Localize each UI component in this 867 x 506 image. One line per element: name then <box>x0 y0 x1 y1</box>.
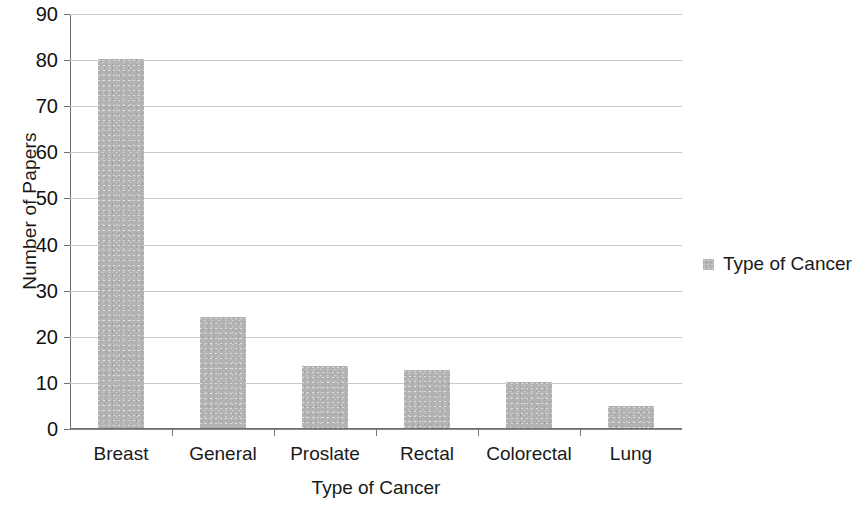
y-axis-tick-label: 80 <box>10 49 58 72</box>
x-axis-tick-label: Rectal <box>400 443 454 465</box>
x-axis-title: Type of Cancer <box>70 477 682 499</box>
gridline <box>70 106 682 107</box>
gridline <box>70 245 682 246</box>
gridline <box>70 14 682 15</box>
gridline <box>70 198 682 199</box>
y-axis-tickmark <box>64 429 70 430</box>
y-axis-tickmark <box>64 383 70 384</box>
y-axis-tickmark <box>64 337 70 338</box>
gridline <box>70 337 682 338</box>
category-separator <box>274 429 275 436</box>
y-axis-tick-label: 90 <box>10 3 58 26</box>
gridline <box>70 291 682 292</box>
x-axis-tick-label: Colorectal <box>486 443 572 465</box>
y-axis-tickmark <box>64 152 70 153</box>
legend: Type of Cancer <box>703 253 852 275</box>
y-axis-tick-label: 0 <box>10 418 58 441</box>
y-axis-tickmark <box>64 106 70 107</box>
bar <box>302 366 348 428</box>
bar <box>200 317 246 428</box>
y-axis-tickmark <box>64 14 70 15</box>
category-separator <box>478 429 479 436</box>
x-axis-tick-label: Proslate <box>290 443 360 465</box>
y-axis-tick-label: 50 <box>10 187 58 210</box>
gridline <box>70 383 682 384</box>
category-separator <box>376 429 377 436</box>
bar-chart-figure: Number of Papers 0102030405060708090 Bre… <box>0 0 867 506</box>
plot-area <box>70 14 682 429</box>
y-axis-tick-label: 20 <box>10 325 58 348</box>
y-axis-tick-label: 10 <box>10 371 58 394</box>
bar <box>98 59 144 428</box>
gridline <box>70 152 682 153</box>
y-axis-tick-label: 30 <box>10 279 58 302</box>
y-axis-tickmark <box>64 198 70 199</box>
y-axis-line <box>70 14 71 429</box>
bar <box>404 370 450 428</box>
y-axis-tickmark <box>64 291 70 292</box>
y-axis-tickmark <box>64 60 70 61</box>
gridline <box>70 60 682 61</box>
x-axis-tick-label: Lung <box>610 443 652 465</box>
y-axis-tick-label: 70 <box>10 95 58 118</box>
x-axis-tick-label: Breast <box>94 443 149 465</box>
category-separator <box>172 429 173 436</box>
y-axis-tick-label: 60 <box>10 141 58 164</box>
y-axis-tickmark <box>64 245 70 246</box>
bar <box>608 406 654 428</box>
category-separator <box>580 429 581 436</box>
y-axis-tick-label: 40 <box>10 233 58 256</box>
bar <box>506 382 552 428</box>
x-axis-tick-label: General <box>189 443 257 465</box>
legend-swatch-icon <box>703 259 714 270</box>
legend-label: Type of Cancer <box>723 253 852 275</box>
